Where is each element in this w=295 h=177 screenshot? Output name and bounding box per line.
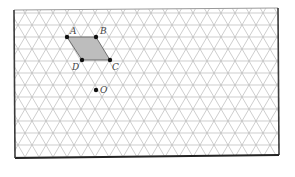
- point-a-label: A: [69, 26, 77, 36]
- frame-edge-left: [14, 10, 15, 158]
- grid-line-diagonal: [0, 0, 160, 177]
- point-b-marker: [94, 35, 98, 39]
- point-d-marker: [80, 58, 84, 62]
- point-b-label: B: [99, 26, 107, 36]
- grid-line-diagonal: [226, 0, 295, 177]
- frame-edge-right: [278, 8, 279, 155]
- grid-line-diagonal: [226, 0, 295, 177]
- worksheet-frame: [14, 8, 279, 158]
- triangular-grid: [0, 0, 295, 177]
- grid-line-diagonal: [240, 0, 295, 177]
- point-a-marker: [65, 35, 69, 39]
- grid-line-diagonal: [268, 0, 295, 177]
- grid-line-diagonal: [212, 0, 295, 177]
- grid-line-diagonal: [268, 0, 295, 177]
- point-o-label: O: [100, 85, 108, 95]
- grid-line-diagonal: [198, 0, 295, 177]
- grid-line-diagonal: [0, 0, 188, 177]
- point-d-label: D: [71, 62, 79, 72]
- grid-line-diagonal: [0, 0, 216, 177]
- frame-edge-bottom: [15, 155, 279, 158]
- grid-line-diagonal: [198, 0, 295, 177]
- grid-line-diagonal: [170, 0, 295, 177]
- grid-line-diagonal: [282, 0, 295, 177]
- grid-line-diagonal: [282, 0, 295, 177]
- grid-line-diagonal: [0, 0, 6, 177]
- grid-line-diagonal: [0, 0, 6, 177]
- grid-line-diagonal: [254, 0, 295, 177]
- grid-line-diagonal: [170, 0, 295, 177]
- grid-line-diagonal: [240, 0, 295, 177]
- grid-line-diagonal: [212, 0, 295, 177]
- grid-line-diagonal: [0, 0, 188, 177]
- frame-edge-top: [14, 8, 278, 10]
- isometric-grid-diagram: ABCDO: [0, 0, 295, 177]
- point-o-marker: [94, 88, 98, 92]
- point-c-label: C: [112, 62, 119, 72]
- grid-line-diagonal: [254, 0, 295, 177]
- grid-line-diagonal: [0, 0, 216, 177]
- grid-line-diagonal: [142, 0, 295, 177]
- grid-line-diagonal: [142, 0, 295, 177]
- grid-line-diagonal: [0, 0, 160, 177]
